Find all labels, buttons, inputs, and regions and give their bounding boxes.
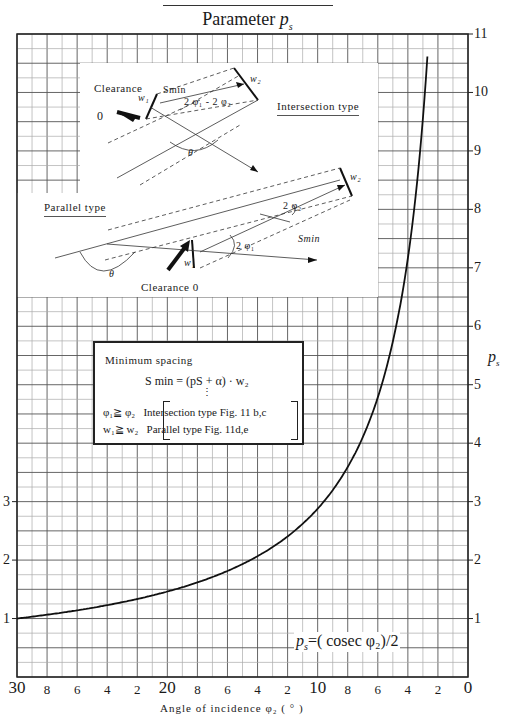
cond2-left: w₁≧ w₂ (103, 423, 138, 435)
y-tick-label-left: 1 (3, 612, 10, 626)
bracket-right (291, 401, 298, 440)
x-tick-label: 2 (435, 682, 442, 697)
cond2-right: Parallel type Fig. 11d,e (147, 423, 249, 435)
bracket-left (163, 401, 170, 440)
smin-bottom-label: Smin (298, 233, 320, 244)
y-label-subscript: s (496, 358, 500, 368)
clearance-zero-top: 0 (97, 109, 104, 124)
curve-lhs-symbol: p (296, 632, 304, 649)
theta-bottom-label: θ (109, 268, 114, 279)
y-tick-label-left: 2 (3, 553, 10, 567)
smin-top-label: Smin (163, 84, 186, 95)
x-tick-label: 2 (134, 682, 141, 697)
w2-top-label: w₂ (250, 73, 261, 84)
cond1-left: φ₁≧ φ₂ (103, 406, 135, 418)
x-tick-label: 2 (284, 682, 291, 697)
angle-phi2-label: 2 φ₂ (283, 200, 302, 211)
condition-intersection: φ₁≧ φ₂ Intersection type Fig. 11 b,c (103, 406, 266, 419)
condition-parallel: w₁≧ w₂ Parallel type Fig. 11d,e (103, 423, 249, 436)
y-tick-label: 2 (474, 553, 481, 567)
y-tick-label: 6 (474, 319, 481, 333)
x-tick-label: 10 (309, 680, 326, 695)
y-tick-label: 1 (474, 612, 481, 626)
y-tick-label: 5 (474, 378, 481, 392)
clearance-label: Clearance (94, 82, 142, 94)
formula-box: Minimum spacing S min = (pS + α) · w₂ ⋮ … (93, 341, 304, 445)
x-tick-label: 4 (254, 682, 261, 697)
theta-top-label: θ (188, 147, 193, 158)
formula-title: Minimum spacing (105, 354, 193, 366)
formula-equation: S min = (pS + α) · w₂ (145, 374, 249, 389)
x-tick-label: 8 (44, 682, 51, 697)
y-tick-label: 3 (474, 495, 481, 509)
w2-bottom-label: w₂ (350, 171, 361, 182)
intersection-type-label: Intersection type (277, 100, 359, 116)
y-axis-label: ps (488, 348, 500, 368)
x-axis-label: Angle of incidence φ₂ ( ° ) (160, 702, 304, 714)
angle-intersection-label: 2 φ₁ - 2 φ₂ (184, 96, 231, 107)
x-tick-label: 4 (104, 682, 111, 697)
x-tick-label: 6 (74, 682, 81, 697)
y-tick-label: 4 (474, 436, 481, 450)
x-tick-label: 6 (224, 682, 231, 697)
formula-ellipsis: ⋮ (202, 389, 212, 395)
x-tick-label: 20 (159, 680, 176, 695)
clearance-zero-bottom: Clearance 0 (141, 281, 199, 293)
x-tick-label: 4 (405, 682, 412, 697)
x-tick-label: 8 (344, 682, 351, 697)
x-tick-label: 30 (9, 680, 26, 695)
curve-rhs: =( cosec φ₂)/2 (308, 632, 398, 649)
angle-phi1-label: 2 φ₁ (236, 240, 255, 251)
y-tick-label: 10 (474, 85, 488, 99)
y-label-symbol: p (488, 348, 496, 365)
w1-top-label: w₁ (138, 92, 149, 103)
y-tick-label: 8 (474, 202, 481, 216)
y-tick-label-left: 3 (3, 495, 10, 509)
y-tick-label: 9 (474, 144, 481, 158)
x-tick-label: 6 (375, 682, 382, 697)
y-tick-label: 11 (474, 27, 487, 41)
parallel-type-label: Parallel type (44, 201, 106, 217)
curve-formula-label: ps=( cosec φ₂)/2 (294, 632, 400, 652)
x-tick-label: 8 (194, 682, 201, 697)
w1-bottom-label: w₁ (184, 257, 195, 268)
x-tick-label: 0 (464, 680, 473, 695)
y-tick-label: 7 (474, 261, 481, 275)
cond1-right: Intersection type Fig. 11 b,c (143, 406, 266, 418)
